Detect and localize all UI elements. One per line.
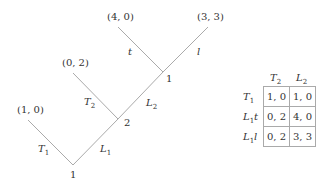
table-row: 1, 0 1, 0 [264, 87, 316, 107]
edge-t [118, 27, 163, 72]
payoff-leaf-1: (1, 0) [17, 105, 44, 115]
edge-L1 [73, 119, 118, 165]
edge-l [163, 27, 208, 72]
table-row: 0, 2 3, 3 [264, 127, 316, 147]
table-cell: 1, 0 [290, 87, 316, 107]
payoff-leaf-4: (3, 3) [197, 12, 224, 22]
table-col-header-L2: L2 [296, 72, 307, 86]
table-cell: 1, 0 [264, 87, 290, 107]
edge-label-t: t [128, 47, 132, 57]
node-3-player: 1 [166, 74, 172, 84]
payoff-matrix: 1, 0 1, 0 0, 2 4, 0 0, 2 3, 3 [263, 86, 316, 147]
edge-T1 [28, 120, 73, 165]
table-row: 0, 2 4, 0 [264, 107, 316, 127]
edge-label-L2: L2 [146, 98, 157, 112]
table-cell: 4, 0 [290, 107, 316, 127]
edge-label-l: l [197, 47, 200, 57]
edge-T2 [73, 73, 118, 119]
table-cell: 0, 2 [264, 107, 290, 127]
table-row-header-T1: T1 [243, 91, 254, 105]
table-row-header-L1t: L1t [243, 111, 258, 125]
table-col-header-T2: T2 [270, 72, 281, 86]
payoff-leaf-2: (0, 2) [62, 58, 89, 68]
payoff-leaf-3: (4, 0) [107, 12, 134, 22]
node-root-player: 1 [70, 170, 76, 180]
node-2-player: 2 [124, 118, 130, 128]
table-row-header-L1l: L1l [243, 131, 257, 145]
edge-label-L1: L1 [100, 144, 111, 158]
edge-label-T1: T1 [38, 144, 49, 158]
table-cell: 3, 3 [290, 127, 316, 147]
table-cell: 0, 2 [264, 127, 290, 147]
edge-label-T2: T2 [84, 97, 95, 111]
